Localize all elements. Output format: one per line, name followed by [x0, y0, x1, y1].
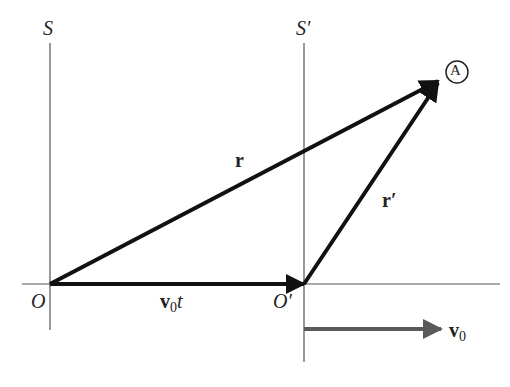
v0t-sub: 0 — [170, 300, 177, 315]
vector-r — [50, 81, 438, 284]
diagram-canvas — [0, 0, 510, 387]
vector-r-prime-label: r′ — [382, 190, 397, 210]
origin-o-prime-label: O′ — [273, 291, 292, 311]
velocity-v0-label: v0 — [449, 320, 466, 340]
s-prime-frame-label: S′ — [296, 18, 310, 38]
s-frame-label: S — [43, 18, 53, 38]
v0-sub: 0 — [459, 329, 466, 344]
vector-r-label: r — [235, 150, 244, 170]
vector-v0t-label: v0t — [160, 291, 183, 311]
point-a-label: A — [450, 63, 461, 78]
origin-o-label: O — [31, 291, 45, 311]
vector-r-prime — [304, 83, 438, 284]
v0t-main: v — [160, 290, 170, 312]
v0t-suffix: t — [177, 290, 183, 312]
v0-main: v — [449, 319, 459, 341]
